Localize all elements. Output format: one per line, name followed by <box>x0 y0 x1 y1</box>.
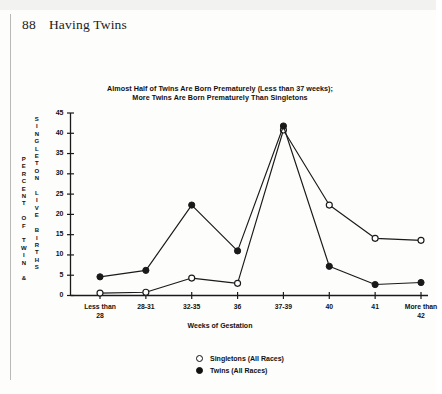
data-point <box>326 202 332 208</box>
data-point <box>97 290 103 296</box>
data-point <box>189 275 195 281</box>
legend-item-twins: Twins (All Races) <box>196 364 284 376</box>
data-point <box>97 274 103 280</box>
data-point <box>234 248 240 254</box>
data-point <box>189 202 195 208</box>
chart-legend: Singletons (All Races)Twins (All Races) <box>196 352 284 376</box>
data-point <box>326 263 332 269</box>
data-point <box>143 289 149 295</box>
data-point <box>418 279 424 285</box>
data-point <box>235 280 241 286</box>
data-point <box>143 267 149 273</box>
x-axis-title: Weeks of Gestation <box>150 322 290 329</box>
chart-axes <box>71 113 429 296</box>
data-point <box>372 281 378 287</box>
open-circle-icon <box>196 355 203 362</box>
data-point <box>372 235 378 241</box>
data-point <box>418 237 424 243</box>
filled-circle-icon <box>196 367 203 374</box>
legend-item-singletons: Singletons (All Races) <box>196 352 284 364</box>
legend-label: Singletons (All Races) <box>210 355 284 362</box>
data-point <box>280 123 286 129</box>
legend-label: Twins (All Races) <box>210 367 267 374</box>
x-tick-label: More than 42 <box>393 303 442 320</box>
